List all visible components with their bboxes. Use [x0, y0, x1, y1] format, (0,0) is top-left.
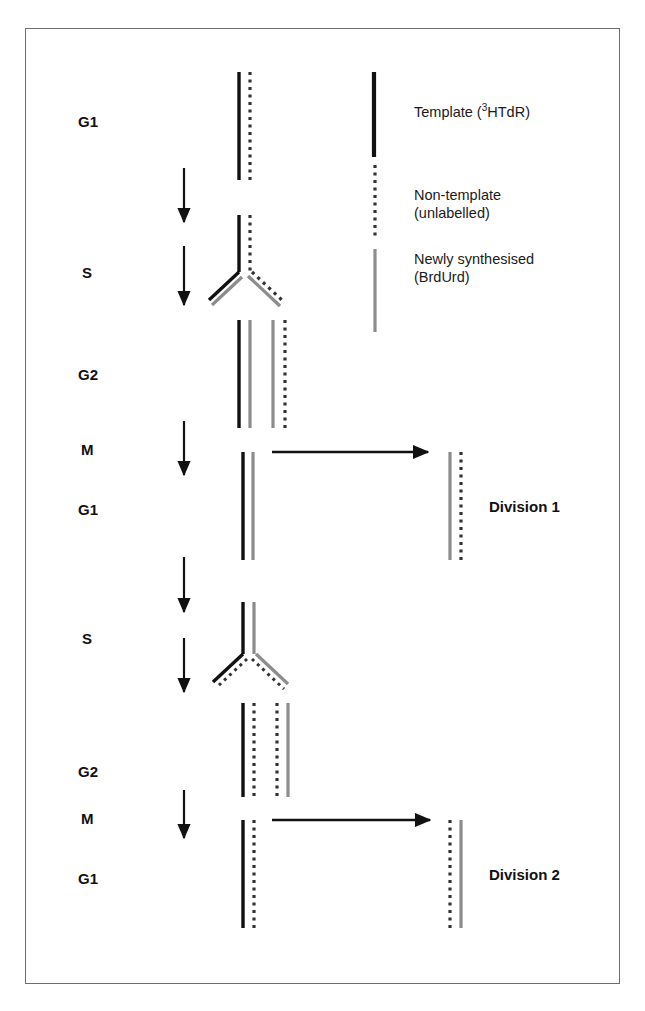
stage-label-g1-third: G1 [78, 870, 98, 887]
division-1-label: Division 1 [489, 498, 560, 515]
stage-label-s-first: S [82, 264, 92, 281]
division-2-label: Division 2 [489, 866, 560, 883]
stage-label-s-second: S [82, 630, 92, 647]
stage-label-g1-first: G1 [78, 113, 98, 130]
stage-label-g2-second: G2 [78, 763, 98, 780]
stage-label-m-first: M [81, 441, 94, 458]
stage-label-g1-second: G1 [78, 501, 98, 518]
legend-label-non-template: Non-template(unlabelled) [414, 186, 501, 222]
legend-label-newly-synthesised: Newly synthesised(BrdUrd) [414, 250, 534, 286]
legend-label-template: Template (3HTdR) [414, 103, 530, 121]
stage-label-m-second: M [81, 810, 94, 827]
stage-label-g2-first: G2 [78, 366, 98, 383]
dna-segregation-figure: G1SG2MG1SG2MG1 Division 1Division 2 Temp… [0, 0, 645, 1011]
